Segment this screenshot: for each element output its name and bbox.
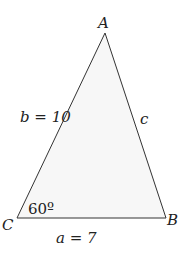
triangle-svg: A B C b = 10 c a = 7 60º: [0, 0, 184, 258]
side-label-b: b = 10: [20, 108, 71, 126]
vertex-label-b: B: [166, 211, 178, 229]
triangle-diagram: A B C b = 10 c a = 7 60º: [0, 0, 184, 258]
vertex-label-a: A: [96, 14, 109, 32]
angle-label-c: 60º: [28, 200, 54, 218]
side-label-c: c: [140, 110, 149, 128]
side-label-a: a = 7: [56, 229, 97, 247]
vertex-label-c: C: [2, 216, 14, 234]
